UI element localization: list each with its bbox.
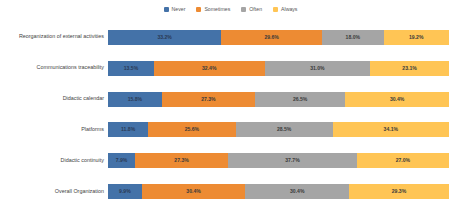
bar-segment-value: 30.4%: [186, 189, 200, 194]
bar-track: 15.8%27.3%26.5%30.4%: [108, 92, 449, 107]
bar-segment-value: 13.5%: [124, 66, 138, 71]
bar-segment-often[interactable]: 30.4%: [245, 184, 349, 199]
category-label: Reorganization of external activities: [0, 34, 108, 40]
bar-segment-often[interactable]: 37.7%: [228, 153, 357, 168]
bar-segment-sometimes[interactable]: 29.6%: [221, 30, 322, 45]
bar-segment-value: 18.0%: [346, 35, 360, 40]
bar-segment-never[interactable]: 9.9%: [108, 184, 142, 199]
legend-item-never[interactable]: Never: [164, 7, 186, 12]
bar-segment-often[interactable]: 31.0%: [265, 61, 371, 76]
bar-segment-never[interactable]: 33.2%: [108, 30, 221, 45]
bar-track: 11.8%25.6%28.5%34.1%: [108, 122, 449, 137]
legend-label: Sometimes: [204, 7, 230, 12]
category-label: Platforms: [0, 127, 108, 133]
bar-segment-value: 29.6%: [264, 35, 278, 40]
bar-segment-sometimes[interactable]: 25.6%: [148, 122, 235, 137]
bar-segment-value: 11.8%: [121, 127, 135, 132]
bar-segment-value: 23.1%: [402, 66, 416, 71]
bar-segment-value: 27.0%: [396, 158, 410, 163]
bar-segment-value: 15.8%: [128, 97, 142, 102]
bar-row: Didactic calendar15.8%27.3%26.5%30.4%: [0, 85, 461, 114]
legend-swatch-icon: [241, 7, 246, 12]
legend-label: Always: [281, 7, 297, 12]
bar-row: Overall Organization9.9%30.4%30.4%29.3%: [0, 177, 461, 206]
stacked-bar-chart: NeverSometimesOftenAlways Reorganization…: [0, 0, 461, 222]
bar-segment-always[interactable]: 29.3%: [349, 184, 449, 199]
bar-segment-value: 34.1%: [384, 127, 398, 132]
legend-swatch-icon: [196, 7, 201, 12]
legend-label: Never: [172, 7, 186, 12]
bar-segment-never[interactable]: 7.9%: [108, 153, 135, 168]
bar-track: 7.9%27.3%37.7%27.0%: [108, 153, 449, 168]
bar-segment-sometimes[interactable]: 27.3%: [162, 92, 255, 107]
legend-item-sometimes[interactable]: Sometimes: [196, 7, 230, 12]
bar-segment-value: 27.3%: [174, 158, 188, 163]
legend-swatch-icon: [164, 7, 169, 12]
bar-row: Didactic continuity7.9%27.3%37.7%27.0%: [0, 146, 461, 175]
bar-segment-value: 37.7%: [285, 158, 299, 163]
bar-segment-value: 25.6%: [185, 127, 199, 132]
bar-segment-value: 7.9%: [116, 158, 128, 163]
bar-segment-sometimes[interactable]: 30.4%: [142, 184, 246, 199]
bar-segment-often[interactable]: 28.5%: [236, 122, 333, 137]
bar-segment-value: 31.0%: [310, 66, 324, 71]
bar-segment-always[interactable]: 23.1%: [370, 61, 449, 76]
bar-segment-value: 19.2%: [409, 35, 423, 40]
bar-segment-value: 26.5%: [293, 97, 307, 102]
chart-plot-area: Reorganization of external activities33.…: [0, 22, 461, 207]
bar-segment-value: 30.4%: [290, 189, 304, 194]
bar-segment-always[interactable]: 30.4%: [345, 92, 449, 107]
category-label: Communications traceability: [0, 65, 108, 71]
chart-legend: NeverSometimesOftenAlways: [0, 4, 461, 16]
bar-segment-never[interactable]: 13.5%: [108, 61, 154, 76]
legend-swatch-icon: [273, 7, 278, 12]
bar-track: 33.2%29.6%18.0%19.2%: [108, 30, 449, 45]
legend-item-always[interactable]: Always: [273, 7, 297, 12]
bar-segment-value: 33.2%: [157, 35, 171, 40]
bar-segment-always[interactable]: 27.0%: [357, 153, 449, 168]
bar-segment-sometimes[interactable]: 27.3%: [135, 153, 228, 168]
bar-segment-never[interactable]: 15.8%: [108, 92, 162, 107]
bar-segment-value: 30.4%: [390, 97, 404, 102]
bar-segment-often[interactable]: 18.0%: [322, 30, 383, 45]
bar-track: 13.5%32.4%31.0%23.1%: [108, 61, 449, 76]
bar-row: Platforms11.8%25.6%28.5%34.1%: [0, 115, 461, 144]
bar-segment-value: 27.3%: [201, 97, 215, 102]
bar-segment-value: 9.9%: [119, 189, 131, 194]
bar-segment-sometimes[interactable]: 32.4%: [154, 61, 264, 76]
category-label: Didactic calendar: [0, 96, 108, 102]
bar-track: 9.9%30.4%30.4%29.3%: [108, 184, 449, 199]
category-label: Overall Organization: [0, 189, 108, 195]
bar-row: Communications traceability13.5%32.4%31.…: [0, 54, 461, 83]
bar-row: Reorganization of external activities33.…: [0, 23, 461, 52]
legend-item-often[interactable]: Often: [241, 7, 262, 12]
bar-segment-always[interactable]: 19.2%: [384, 30, 449, 45]
bar-segment-value: 29.3%: [392, 189, 406, 194]
bar-segment-value: 28.5%: [277, 127, 291, 132]
bar-segment-never[interactable]: 11.8%: [108, 122, 148, 137]
bar-segment-always[interactable]: 34.1%: [333, 122, 449, 137]
category-label: Didactic continuity: [0, 158, 108, 164]
bar-segment-often[interactable]: 26.5%: [255, 92, 345, 107]
legend-label: Often: [249, 7, 262, 12]
bar-segment-value: 32.4%: [202, 66, 216, 71]
